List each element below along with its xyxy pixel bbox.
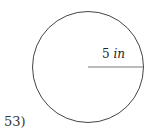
- circle-figure: 5 in 53): [0, 0, 154, 136]
- radius-value: 5: [102, 47, 110, 61]
- radius-label: 5 in: [102, 47, 125, 61]
- problem-number: 53): [4, 114, 26, 129]
- radius-unit: in: [113, 47, 125, 61]
